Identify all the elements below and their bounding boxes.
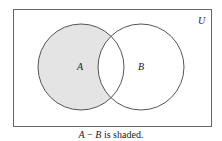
caption-text: is shaded. [101,129,143,140]
set-b-label: B [138,61,144,72]
set-a-label: A [76,61,84,72]
caption: A − B is shaded. [0,129,222,140]
caption-operator: − [85,129,96,140]
venn-diagram: U A B [0,0,222,141]
universe-label: U [198,15,206,26]
